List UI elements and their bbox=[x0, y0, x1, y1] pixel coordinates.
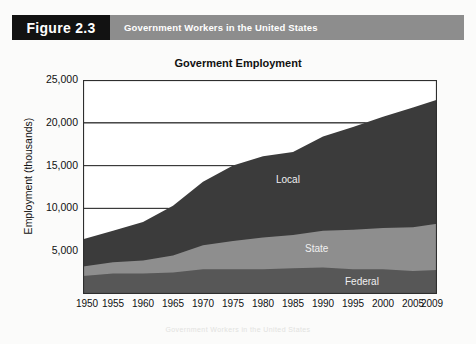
x-axis-tick-label: 1985 bbox=[282, 298, 304, 309]
area-chart-svg: FederalStateLocal bbox=[83, 80, 437, 294]
figure-header: Figure 2.3 Government Workers in the Uni… bbox=[12, 15, 464, 40]
x-axis-tick-label: 1995 bbox=[342, 298, 364, 309]
x-axis-tick-label: 1960 bbox=[132, 298, 154, 309]
y-axis-ticks: 5,00010,00015,00020,00025,000 bbox=[0, 80, 78, 294]
y-axis-tick-label: 10,000 bbox=[46, 201, 78, 213]
y-axis-tick-label: 20,000 bbox=[46, 116, 78, 128]
x-axis-tick-label: 1975 bbox=[222, 298, 244, 309]
x-axis-tick-label: 1950 bbox=[76, 298, 98, 309]
x-axis-tick-label: 1955 bbox=[102, 298, 124, 309]
chart-title: Goverment Employment bbox=[0, 57, 476, 69]
series-label-state: State bbox=[305, 243, 329, 254]
figure-number-tab: Figure 2.3 bbox=[12, 15, 110, 40]
x-axis-tick-label: 1965 bbox=[162, 298, 184, 309]
y-axis-tick-label: 5,000 bbox=[52, 244, 78, 256]
figure-title-bar: Government Workers in the United States bbox=[110, 15, 464, 40]
x-axis-tick-label: 2000 bbox=[372, 298, 394, 309]
x-axis-ticks: 1950195519601965197019751980198519901995… bbox=[83, 298, 437, 314]
x-axis-tick-label: 1990 bbox=[312, 298, 334, 309]
series-label-local: Local bbox=[276, 174, 300, 185]
page-bleed-text: Government Workers in the United States bbox=[0, 326, 476, 333]
series-label-federal: Federal bbox=[345, 276, 379, 287]
x-axis-tick-label: 2009 bbox=[421, 298, 443, 309]
x-axis-tick-label: 1970 bbox=[192, 298, 214, 309]
y-axis-tick-label: 25,000 bbox=[46, 73, 78, 85]
x-axis-tick-label: 1980 bbox=[252, 298, 274, 309]
plot-area: FederalStateLocal bbox=[83, 80, 437, 294]
y-axis-tick-label: 15,000 bbox=[46, 159, 78, 171]
